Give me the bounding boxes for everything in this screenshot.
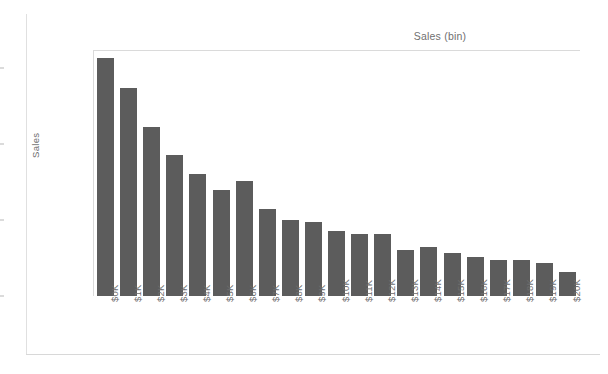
bar[interactable] bbox=[97, 58, 114, 296]
x-axis-tick-label: $5K bbox=[224, 284, 235, 302]
x-axis-tick-label: $2K bbox=[155, 284, 166, 302]
x-axis-tick-label: $15K bbox=[455, 279, 466, 302]
x-axis-tick-label: $18K bbox=[524, 279, 535, 302]
bar[interactable] bbox=[213, 190, 230, 296]
bar[interactable] bbox=[259, 209, 276, 296]
y-axis[interactable]: Sales $0.0M$1.0M$2.0M$3.0M bbox=[0, 0, 93, 374]
y-axis-tick-mark bbox=[0, 144, 4, 145]
bar[interactable] bbox=[120, 88, 137, 296]
bar[interactable] bbox=[189, 174, 206, 296]
y-axis-tick-mark bbox=[0, 68, 4, 69]
x-axis-tick-label: $9K bbox=[316, 284, 327, 302]
x-axis-tick-label: $11K bbox=[363, 280, 374, 302]
y-axis-title: Sales bbox=[30, 133, 41, 158]
x-axis[interactable]: $0K$1K$2K$3K$4K$5K$6K$7K$8K$9K$10K$11K$1… bbox=[93, 296, 580, 356]
x-axis-tick-label: $3K bbox=[178, 284, 189, 302]
plot-area bbox=[93, 50, 580, 296]
page-title: Sales (bin) bbox=[300, 30, 580, 42]
y-axis-tick-mark bbox=[0, 220, 4, 221]
bar-chart-view: Sales (bin) Sales $0.0M$1.0M$2.0M$3.0M $… bbox=[0, 0, 608, 374]
x-axis-tick-label: $16K bbox=[478, 279, 489, 302]
bar[interactable] bbox=[166, 155, 183, 296]
x-axis-tick-label: $6K bbox=[247, 284, 258, 302]
y-axis-tick-mark bbox=[0, 296, 4, 297]
x-axis-tick-label: $20K bbox=[571, 279, 582, 302]
x-axis-tick-label: $7K bbox=[270, 284, 281, 302]
x-axis-tick-label: $13K bbox=[409, 279, 420, 302]
bar[interactable] bbox=[143, 127, 160, 296]
x-axis-tick-label: $14K bbox=[432, 279, 443, 302]
x-axis-tick-label: $1K bbox=[132, 284, 143, 302]
x-axis-tick-label: $19K bbox=[547, 279, 558, 302]
x-axis-tick-label: $4K bbox=[201, 284, 212, 302]
x-axis-tick-label: $10K bbox=[340, 279, 351, 302]
bar[interactable] bbox=[236, 181, 253, 296]
x-axis-tick-label: $0K bbox=[109, 284, 120, 302]
x-axis-tick-label: $17K bbox=[501, 279, 512, 302]
bars-container bbox=[94, 51, 580, 296]
x-axis-tick-label: $12K bbox=[386, 279, 397, 302]
x-axis-tick-label: $8K bbox=[293, 284, 304, 302]
